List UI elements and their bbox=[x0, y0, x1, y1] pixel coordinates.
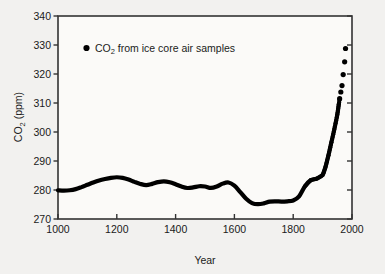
y-tick-label: 310 bbox=[33, 97, 51, 109]
series-marker bbox=[343, 46, 348, 51]
x-tick-label: 1600 bbox=[223, 223, 247, 235]
y-tick-label: 330 bbox=[33, 39, 51, 51]
series-marker bbox=[337, 96, 342, 101]
y-tick-label: 280 bbox=[33, 184, 51, 196]
series-marker bbox=[338, 89, 343, 94]
x-tick-label: 2000 bbox=[340, 223, 364, 235]
series-marker bbox=[342, 59, 347, 64]
y-tick-label: 340 bbox=[33, 10, 51, 22]
x-tick-label: 1800 bbox=[282, 223, 306, 235]
y-tick-label: 320 bbox=[33, 68, 51, 80]
y-tick-label: 290 bbox=[33, 155, 51, 167]
x-tick-label: 1200 bbox=[105, 223, 129, 235]
co2-ice-core-line-chart: 270280290300310320330340 100012001400160… bbox=[0, 0, 385, 274]
legend-marker-icon bbox=[83, 45, 89, 51]
x-tick-label: 1000 bbox=[46, 223, 70, 235]
series-marker bbox=[341, 72, 346, 77]
x-tick-label: 1400 bbox=[164, 223, 188, 235]
chart-figure: 270280290300310320330340 100012001400160… bbox=[0, 0, 385, 274]
x-axis-title: Year bbox=[194, 254, 216, 266]
series-marker bbox=[339, 83, 344, 88]
y-tick-label: 300 bbox=[33, 126, 51, 138]
